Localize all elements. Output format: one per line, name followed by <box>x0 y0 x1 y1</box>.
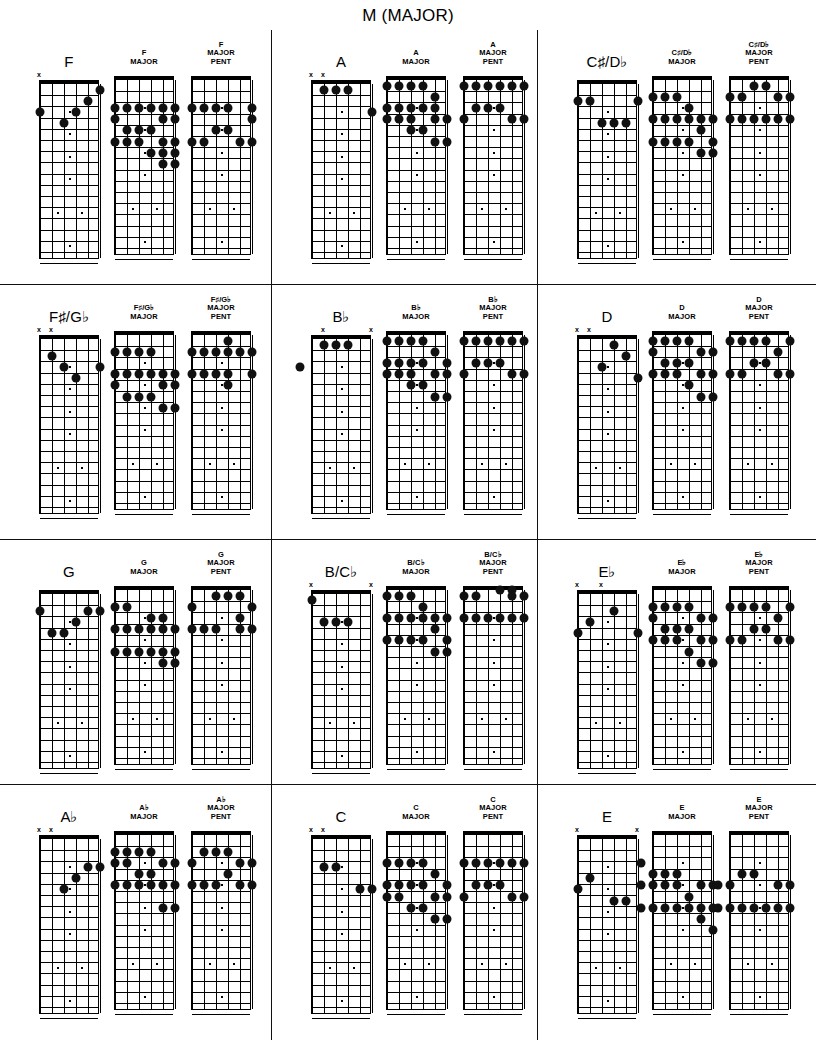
note-dot[interactable] <box>407 126 416 135</box>
fretboard[interactable] <box>463 831 523 1010</box>
note-dot[interactable] <box>419 81 428 90</box>
note-dot[interactable] <box>224 591 233 600</box>
note-dot[interactable] <box>60 119 69 128</box>
note-dot[interactable] <box>188 625 197 634</box>
note-dot[interactable] <box>383 881 392 890</box>
fretboard[interactable] <box>39 80 99 259</box>
note-dot[interactable] <box>709 115 718 124</box>
note-dot[interactable] <box>661 636 670 645</box>
note-dot[interactable] <box>84 863 93 872</box>
note-dot[interactable] <box>72 874 81 883</box>
note-dot[interactable] <box>407 636 416 645</box>
note-dot[interactable] <box>383 892 392 901</box>
note-dot[interactable] <box>460 859 469 868</box>
fretboard[interactable] <box>39 835 99 1014</box>
note-dot[interactable] <box>685 903 694 912</box>
note-dot[interactable] <box>159 115 168 124</box>
note-dot[interactable] <box>236 625 245 634</box>
fretboard[interactable] <box>577 335 637 514</box>
note-dot[interactable] <box>697 636 706 645</box>
note-dot[interactable] <box>236 591 245 600</box>
note-dot[interactable] <box>84 606 93 615</box>
note-dot[interactable] <box>320 618 329 627</box>
note-dot[interactable] <box>48 351 57 360</box>
note-dot[interactable] <box>649 370 658 379</box>
note-dot[interactable] <box>673 137 682 146</box>
note-dot[interactable] <box>332 85 341 94</box>
note-dot[interactable] <box>762 625 771 634</box>
note-dot[interactable] <box>224 370 233 379</box>
note-dot[interactable] <box>320 340 329 349</box>
note-dot[interactable] <box>738 903 747 912</box>
note-dot[interactable] <box>443 881 452 890</box>
note-dot[interactable] <box>443 915 452 924</box>
note-dot[interactable] <box>574 629 583 638</box>
note-dot[interactable] <box>224 347 233 356</box>
note-dot[interactable] <box>96 363 105 372</box>
note-dot[interactable] <box>574 96 583 105</box>
note-dot[interactable] <box>224 126 233 135</box>
note-dot[interactable] <box>356 885 365 894</box>
note-dot[interactable] <box>36 108 45 117</box>
note-dot[interactable] <box>188 370 197 379</box>
note-dot[interactable] <box>407 903 416 912</box>
note-dot[interactable] <box>171 115 180 124</box>
note-dot[interactable] <box>661 115 670 124</box>
note-dot[interactable] <box>762 602 771 611</box>
note-dot[interactable] <box>750 115 759 124</box>
note-dot[interactable] <box>383 859 392 868</box>
note-dot[interactable] <box>649 881 658 890</box>
note-dot[interactable] <box>649 870 658 879</box>
note-dot[interactable] <box>750 625 759 634</box>
note-dot[interactable] <box>159 370 168 379</box>
note-dot[interactable] <box>236 137 245 146</box>
note-dot[interactable] <box>685 137 694 146</box>
note-dot[interactable] <box>212 591 221 600</box>
note-dot[interactable] <box>123 104 132 113</box>
note-dot[interactable] <box>248 137 257 146</box>
note-dot[interactable] <box>508 115 517 124</box>
note-dot[interactable] <box>786 903 795 912</box>
fretboard[interactable] <box>39 590 99 769</box>
note-dot[interactable] <box>472 859 481 868</box>
note-dot[interactable] <box>661 881 670 890</box>
note-dot[interactable] <box>171 658 180 667</box>
note-dot[interactable] <box>673 336 682 345</box>
note-dot[interactable] <box>147 847 156 856</box>
note-dot[interactable] <box>472 81 481 90</box>
note-dot[interactable] <box>762 115 771 124</box>
note-dot[interactable] <box>383 359 392 368</box>
note-dot[interactable] <box>248 104 257 113</box>
note-dot[interactable] <box>697 881 706 890</box>
note-dot[interactable] <box>111 602 120 611</box>
note-dot[interactable] <box>171 403 180 412</box>
note-dot[interactable] <box>472 336 481 345</box>
note-dot[interactable] <box>395 370 404 379</box>
note-dot[interactable] <box>248 602 257 611</box>
note-dot[interactable] <box>508 614 517 623</box>
note-dot[interactable] <box>236 614 245 623</box>
note-dot[interactable] <box>661 370 670 379</box>
note-dot[interactable] <box>496 81 505 90</box>
note-dot[interactable] <box>96 606 105 615</box>
note-dot[interactable] <box>147 370 156 379</box>
note-dot[interactable] <box>171 137 180 146</box>
note-dot[interactable] <box>520 81 529 90</box>
note-dot[interactable] <box>697 658 706 667</box>
note-dot[interactable] <box>407 81 416 90</box>
note-dot[interactable] <box>634 96 643 105</box>
note-dot[interactable] <box>111 381 120 390</box>
note-dot[interactable] <box>431 115 440 124</box>
fretboard[interactable] <box>652 831 712 1010</box>
note-dot[interactable] <box>443 392 452 401</box>
note-dot[interactable] <box>123 647 132 656</box>
note-dot[interactable] <box>123 859 132 868</box>
note-dot[interactable] <box>786 881 795 890</box>
note-dot[interactable] <box>395 636 404 645</box>
note-dot[interactable] <box>123 126 132 135</box>
note-dot[interactable] <box>344 85 353 94</box>
note-dot[interactable] <box>395 881 404 890</box>
note-dot[interactable] <box>236 859 245 868</box>
fretboard[interactable] <box>191 831 251 1010</box>
fretboard[interactable] <box>729 331 789 510</box>
